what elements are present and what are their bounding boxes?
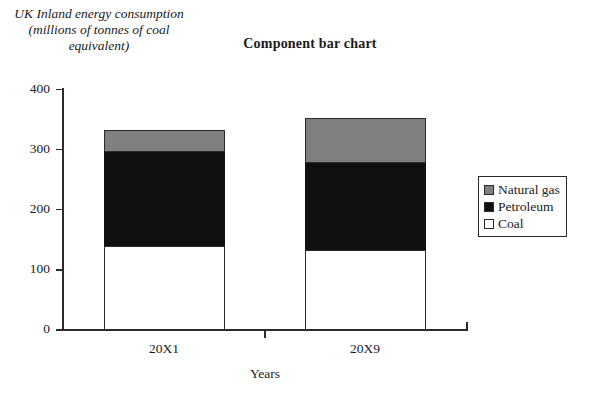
- legend-label: Coal: [498, 217, 524, 231]
- component-bar-chart: UK Inland energy consumption (millions o…: [0, 0, 591, 396]
- bar-segment-coal[interactable]: [305, 250, 426, 330]
- legend-swatch-icon: [484, 219, 494, 229]
- bar-segment-petroleum[interactable]: [305, 163, 426, 250]
- x-category-label-20X9: 20X9: [305, 341, 425, 357]
- legend-swatch-icon: [484, 185, 494, 195]
- bar-segment-petroleum[interactable]: [104, 152, 225, 245]
- y-tick-200: [56, 209, 63, 211]
- y-tick-label-0: 0: [4, 321, 50, 337]
- y-tick-label-300: 300: [4, 141, 50, 157]
- chart-title: Component bar chart: [200, 36, 420, 52]
- bar-segment-coal[interactable]: [104, 246, 225, 330]
- x-axis-mid-tick: [264, 330, 266, 338]
- legend-item-coal[interactable]: Coal: [484, 215, 560, 232]
- y-tick-label-400: 400: [4, 81, 50, 97]
- y-tick-400: [56, 89, 63, 91]
- legend-label: Petroleum: [498, 200, 554, 214]
- y-tick-0: [56, 329, 63, 331]
- y-tick-100: [56, 269, 63, 271]
- bar-segment-natural-gas[interactable]: [104, 130, 225, 152]
- chart-legend: Natural gas Petroleum Coal: [478, 176, 567, 237]
- x-axis-title: Years: [205, 366, 325, 382]
- y-tick-300: [56, 149, 63, 151]
- bar-segment-natural-gas[interactable]: [305, 118, 426, 163]
- legend-label: Natural gas: [498, 183, 560, 197]
- legend-item-natural-gas[interactable]: Natural gas: [484, 181, 560, 198]
- legend-swatch-icon: [484, 202, 494, 212]
- x-category-label-20X1: 20X1: [104, 341, 224, 357]
- y-tick-label-100: 100: [4, 261, 50, 277]
- legend-item-petroleum[interactable]: Petroleum: [484, 198, 560, 215]
- y-axis-label: UK Inland energy consumption (millions o…: [14, 6, 184, 54]
- x-axis-end-tick: [466, 322, 468, 330]
- y-tick-label-200: 200: [4, 201, 50, 217]
